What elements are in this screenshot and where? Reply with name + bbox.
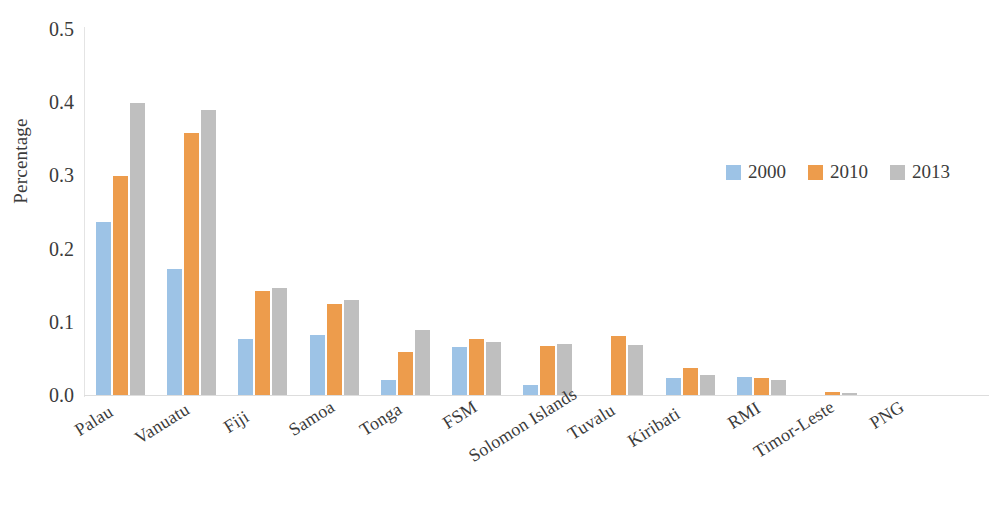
bar-group <box>737 29 789 395</box>
legend-label: 2013 <box>912 161 950 183</box>
legend-swatch-icon <box>808 165 823 180</box>
bar-2010 <box>255 291 270 395</box>
x-axis-label-fiji: Fiji <box>220 406 253 437</box>
bar-2010 <box>327 304 342 396</box>
bar-2000 <box>238 339 253 395</box>
bar-2000 <box>737 377 752 395</box>
bar-2013 <box>130 103 145 395</box>
bar-group <box>808 29 860 395</box>
bar-2013 <box>628 345 643 396</box>
bar-2010 <box>611 336 626 395</box>
x-axis-label-tonga: Tonga <box>356 399 406 441</box>
y-axis-tick-label: 0.2 <box>26 239 74 259</box>
y-axis-tick-label: 0.1 <box>26 312 74 332</box>
bar-2000 <box>96 222 111 395</box>
bar-2000 <box>523 385 538 395</box>
bar-2010 <box>683 368 698 395</box>
x-axis-label-timor-leste: Timor-Leste <box>750 397 838 463</box>
bar-group <box>381 29 433 395</box>
bar-2013 <box>700 375 715 395</box>
legend-label: 2010 <box>830 161 868 183</box>
y-axis-tick-label: 0.5 <box>26 19 74 39</box>
bar-2013 <box>201 110 216 395</box>
legend-item-2010: 2010 <box>808 161 868 183</box>
bar-group <box>879 29 931 395</box>
legend-item-2013: 2013 <box>890 161 950 183</box>
bar-2010 <box>540 346 555 395</box>
bar-group <box>594 29 646 395</box>
bar-group <box>238 29 290 395</box>
x-axis-label-samoa: Samoa <box>285 397 339 441</box>
bar-chart: Percentage 0.50.40.30.20.10.0 PalauVanua… <box>0 0 1001 527</box>
bar-2010 <box>398 352 413 395</box>
bar-group <box>523 29 575 395</box>
chart-legend: 200020102013 <box>726 161 950 183</box>
x-axis-label-png: PNG <box>866 397 908 434</box>
x-axis-line <box>84 395 989 396</box>
bar-2000 <box>452 347 467 395</box>
bar-2010 <box>184 133 199 395</box>
x-axis-label-rmi: RMI <box>724 398 764 434</box>
bar-2013 <box>771 380 786 395</box>
bar-2010 <box>469 339 484 395</box>
bar-2013 <box>344 300 359 395</box>
bar-2013 <box>842 393 857 395</box>
x-axis-label-vanuatu: Vanuatu <box>131 399 193 449</box>
legend-label: 2000 <box>748 161 786 183</box>
plot-area <box>84 29 991 395</box>
y-axis-tick-label: 0.4 <box>26 92 74 112</box>
y-axis-tick-label: 0.3 <box>26 165 74 185</box>
bar-2013 <box>486 342 501 395</box>
bar-group <box>96 29 148 395</box>
bar-2013 <box>272 288 287 395</box>
y-axis-tick-labels: 0.50.40.30.20.10.0 <box>22 0 74 527</box>
bar-2000 <box>310 335 325 395</box>
bar-group <box>310 29 362 395</box>
bar-2000 <box>167 269 182 395</box>
bar-group <box>167 29 219 395</box>
x-axis-label-kiribati: Kiribati <box>624 404 684 452</box>
legend-item-2000: 2000 <box>726 161 786 183</box>
bar-group <box>666 29 718 395</box>
legend-swatch-icon <box>890 165 905 180</box>
bar-2000 <box>666 378 681 395</box>
bar-group <box>452 29 504 395</box>
x-axis-label-fsm: FSM <box>439 397 481 434</box>
bar-2010 <box>113 176 128 395</box>
y-axis-tick-label: 0.0 <box>26 385 74 405</box>
bar-2000 <box>381 380 396 395</box>
x-axis-label-solomon-islands: Solomon Islands <box>465 384 581 467</box>
bar-2010 <box>825 392 840 395</box>
legend-swatch-icon <box>726 165 741 180</box>
x-axis-label-palau: Palau <box>71 402 117 442</box>
bar-2013 <box>415 330 430 395</box>
bar-2010 <box>754 378 769 395</box>
